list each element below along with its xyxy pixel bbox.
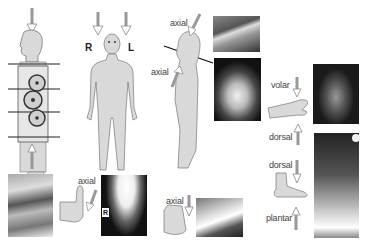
wrist-xray (313, 64, 359, 124)
lateral-head-figure (164, 14, 213, 168)
label-dorsal-foot: dorsal (269, 160, 292, 170)
xray-marker-icon (352, 134, 360, 142)
foot-xray (314, 133, 359, 238)
arrow-down-icon (93, 12, 103, 35)
heel-positioning-photo (8, 174, 53, 237)
heel-figure (60, 186, 96, 223)
frontal-body-figure (87, 12, 137, 170)
label-axial-heel: axial (78, 176, 96, 186)
arrow-axial-icon (86, 190, 96, 211)
arrow-axial-down-icon (185, 195, 193, 216)
label-dorsal-hand: dorsal (269, 132, 292, 142)
arrow-down-icon (293, 77, 301, 97)
label-right: R (85, 42, 92, 53)
knee-positioning-photo (196, 198, 243, 237)
arrow-up-icon (294, 124, 302, 145)
heel-axial-xray (101, 175, 147, 236)
arrow-down-icon (293, 160, 301, 183)
label-axial-head-bottom: axial (151, 67, 169, 77)
label-plantar: plantar (266, 213, 292, 223)
label-left: L (128, 42, 134, 53)
skull-axial-xray (214, 58, 261, 121)
xray-side-marker: R (101, 207, 110, 218)
label-axial-knee: axial (166, 196, 184, 206)
arrow-up-icon (292, 207, 300, 230)
head-positioning-photo (213, 16, 260, 52)
arrow-down-icon (27, 8, 37, 33)
label-volar: volar (271, 80, 290, 90)
label-axial-head-top: axial (170, 18, 188, 28)
diagram-canvas (0, 0, 368, 248)
arrow-down-icon (121, 12, 131, 35)
